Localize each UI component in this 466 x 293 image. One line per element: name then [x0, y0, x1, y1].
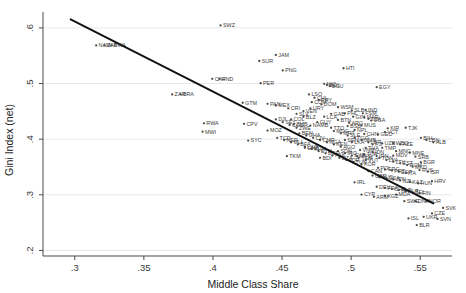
point-label: MDA	[398, 191, 410, 197]
scatter-point	[242, 102, 244, 104]
point-label: AZE	[403, 141, 414, 147]
scatter-point	[442, 207, 444, 209]
point-label: TTO	[333, 125, 344, 131]
scatter-point	[352, 115, 354, 117]
scatter-point	[337, 150, 339, 152]
scatter-point	[203, 122, 205, 124]
point-label: EGY	[379, 84, 391, 90]
scatter-point	[110, 44, 112, 46]
scatter-point	[432, 141, 434, 143]
point-label: BTN	[340, 117, 351, 123]
x-tick-label: .5	[347, 262, 355, 273]
scatter-point	[418, 169, 420, 171]
scatter-point	[319, 139, 321, 141]
point-label: PER	[263, 80, 274, 86]
gridlines	[43, 28, 452, 251]
scatter-point	[218, 78, 220, 80]
point-label: NZL	[403, 178, 413, 184]
point-label: SEY	[285, 119, 296, 125]
scatter-point	[319, 157, 321, 159]
scatter-point	[201, 131, 203, 133]
point-label: SVN	[440, 216, 451, 222]
scatter-point	[266, 129, 268, 131]
point-label: MWI	[205, 129, 216, 135]
point-label: KGZ	[387, 193, 399, 199]
point-label: TKM	[289, 153, 301, 159]
scatter-point	[353, 181, 355, 183]
data-points: SWZNAMZAFBWASURJAMPNGHTICAFHNDPERNICBOLE…	[95, 22, 457, 228]
scatter-point	[342, 67, 344, 69]
y-tick-label: .2	[24, 246, 35, 254]
point-label: WSM	[340, 104, 354, 110]
scatter-point	[276, 137, 278, 139]
scatter-point	[431, 180, 433, 182]
scatter-point	[367, 118, 369, 120]
scatter-point	[409, 181, 411, 183]
scatter-point	[417, 182, 419, 184]
x-axis-ticks: .3.35.4.45.5.55	[71, 256, 427, 273]
point-label: BRA	[183, 91, 194, 97]
point-label: UKR	[426, 214, 437, 220]
point-label: GTM	[245, 100, 257, 106]
point-label: SWZ	[223, 22, 236, 28]
point-label: FIN	[422, 190, 431, 196]
point-label: ITA	[408, 170, 416, 176]
x-tick-label: .3	[71, 262, 79, 273]
scatter-point	[347, 134, 349, 136]
scatter-point	[371, 174, 373, 176]
scatter-point	[311, 101, 313, 103]
point-label: ISL	[411, 215, 419, 221]
point-label: VCT	[387, 129, 398, 135]
scatter-point	[405, 172, 407, 174]
point-label: NAMB	[313, 122, 329, 128]
scatter-point	[302, 110, 304, 112]
point-label: ISR	[430, 169, 439, 175]
point-label: SUR	[262, 58, 273, 64]
scatter-point	[420, 137, 422, 139]
scatter-point	[377, 133, 379, 135]
scatter-point	[312, 137, 314, 139]
point-label: SWE	[407, 198, 420, 204]
scatter-point	[399, 143, 401, 145]
scatter-point	[370, 119, 372, 121]
scatter-point	[360, 139, 362, 141]
y-tick-label: .5	[24, 80, 35, 88]
scatter-point	[323, 83, 325, 85]
scatter-point	[326, 84, 328, 86]
point-label: PNG	[285, 67, 297, 73]
scatter-point	[329, 85, 331, 87]
point-label: TON	[382, 155, 393, 161]
scatter-point	[391, 188, 393, 190]
scatter-point	[333, 143, 335, 145]
scatter-point	[337, 119, 339, 121]
point-label: DJI	[278, 116, 286, 122]
point-label: URY	[313, 105, 325, 111]
scatter-point	[403, 200, 405, 202]
scatter-point	[392, 178, 394, 180]
point-label: CPV	[246, 121, 257, 127]
point-label: BLR	[419, 222, 430, 228]
scatter-point	[371, 143, 373, 145]
point-label: HUN	[421, 180, 433, 186]
point-label: MOZ	[270, 127, 283, 133]
scatter-point	[392, 161, 394, 163]
scatter-point	[258, 60, 260, 62]
scatter-point	[103, 44, 105, 46]
y-axis-ticks: .2.3.4.5.6	[24, 24, 43, 254]
scatter-point	[376, 186, 378, 188]
point-label: SVK	[445, 205, 456, 211]
plot-canvas: SWZNAMZAFBWASURJAMPNGHTICAFHNDPERNICBOLE…	[0, 0, 466, 293]
point-label: ARM	[376, 194, 388, 200]
scatter-point	[384, 131, 386, 133]
scatter-point	[243, 123, 245, 125]
point-label: HTI	[346, 65, 355, 71]
point-label: CYP	[364, 191, 375, 197]
scatter-point	[219, 24, 221, 26]
y-axis-title: Gini Index (net)	[3, 104, 15, 176]
scatter-point	[363, 116, 365, 118]
scatter-point	[330, 127, 332, 129]
point-label: GAB	[333, 111, 345, 117]
scatter-point	[399, 179, 401, 181]
point-label: IRL	[357, 179, 365, 185]
scatter-point	[309, 107, 311, 109]
